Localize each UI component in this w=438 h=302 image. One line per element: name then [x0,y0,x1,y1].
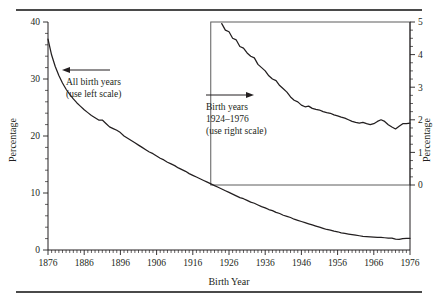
y-tick-label-right: 3 [418,83,423,93]
x-tick-label: 1936 [256,258,275,268]
x-tick-label: 1916 [183,258,202,268]
x-tick-label: 1896 [111,258,130,268]
y-tick-label-right: 0 [418,180,423,190]
annotation-all-birth-years-line2: (use left scale) [66,89,121,100]
left-axis: 010203040 [31,17,49,255]
x-tick-label: 1926 [220,258,239,268]
x-tick-label: 1906 [147,258,166,268]
annotation-birth-years-line3: (use right scale) [206,126,267,137]
y-tick-label-left: 30 [31,74,41,84]
chart-canvas: 010203040 187618861896190619161926193619… [0,0,438,302]
annotation-birth-years-line1: Birth years [206,102,248,112]
y-tick-label-right: 4 [418,50,423,60]
y-axis-title-right: Percentage [421,118,432,162]
y-axis-title-left: Percentage [7,118,18,162]
annotation-all-birth-years-line1: All birth years [66,77,121,87]
y-tick-label-left: 40 [31,17,41,27]
x-tick-label: 1976 [401,258,420,268]
annotation-all-birth-years: All birth years (use left scale) [62,67,121,100]
x-tick-label: 1876 [39,258,58,268]
annotation-birth-years-line2: 1924–1976 [206,114,249,124]
x-axis-title: Birth Year [208,276,250,287]
x-tick-label: 1886 [75,258,94,268]
x-tick-label: 1946 [292,258,311,268]
y-tick-label-left: 20 [31,131,41,141]
x-tick-label: 1966 [364,258,383,268]
bottom-axis: 1876188618961906191619261936194619561966… [39,250,420,268]
y-tick-label-left: 0 [35,245,40,255]
y-tick-label-right: 5 [418,17,423,27]
y-tick-label-left: 10 [31,188,41,198]
x-tick-label: 1956 [328,258,347,268]
figure-container: 010203040 187618861896190619161926193619… [0,0,438,302]
